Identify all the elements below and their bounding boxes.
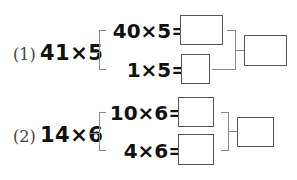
problem-2-label: (2) <box>13 127 36 146</box>
bracket-vertical <box>99 30 100 70</box>
answer-box-2a[interactable] <box>178 97 214 127</box>
bracket-vertical <box>99 112 100 151</box>
bracket-top <box>99 112 106 113</box>
split-expression-2a: 10×6= <box>108 101 185 125</box>
bracket-stem-right <box>228 131 237 132</box>
problem-1-expression: 41×5 <box>40 41 103 65</box>
split-expression-1a: 40×5= <box>108 19 188 43</box>
problem-1-label: (1) <box>13 45 36 64</box>
bracket-bottom-right <box>221 150 228 151</box>
answer-box-2b[interactable] <box>178 134 214 165</box>
answer-box-1-total[interactable] <box>244 35 287 66</box>
bracket-bottom-right <box>212 69 236 70</box>
bracket-top <box>99 30 106 31</box>
answer-box-1a[interactable] <box>180 15 223 45</box>
bracket-bottom <box>99 150 106 151</box>
answer-box-1b[interactable] <box>181 54 210 84</box>
problem-2-expression: 14×6 <box>40 123 103 147</box>
answer-box-2-total[interactable] <box>237 117 274 147</box>
bracket-stem <box>90 52 99 53</box>
split-expression-2b: 4×6= <box>108 139 185 163</box>
bracket-bottom <box>99 69 106 70</box>
bracket-stem <box>90 133 99 134</box>
bracket-top-right <box>221 112 228 113</box>
split-expression-1b: 1×5= <box>108 58 188 82</box>
